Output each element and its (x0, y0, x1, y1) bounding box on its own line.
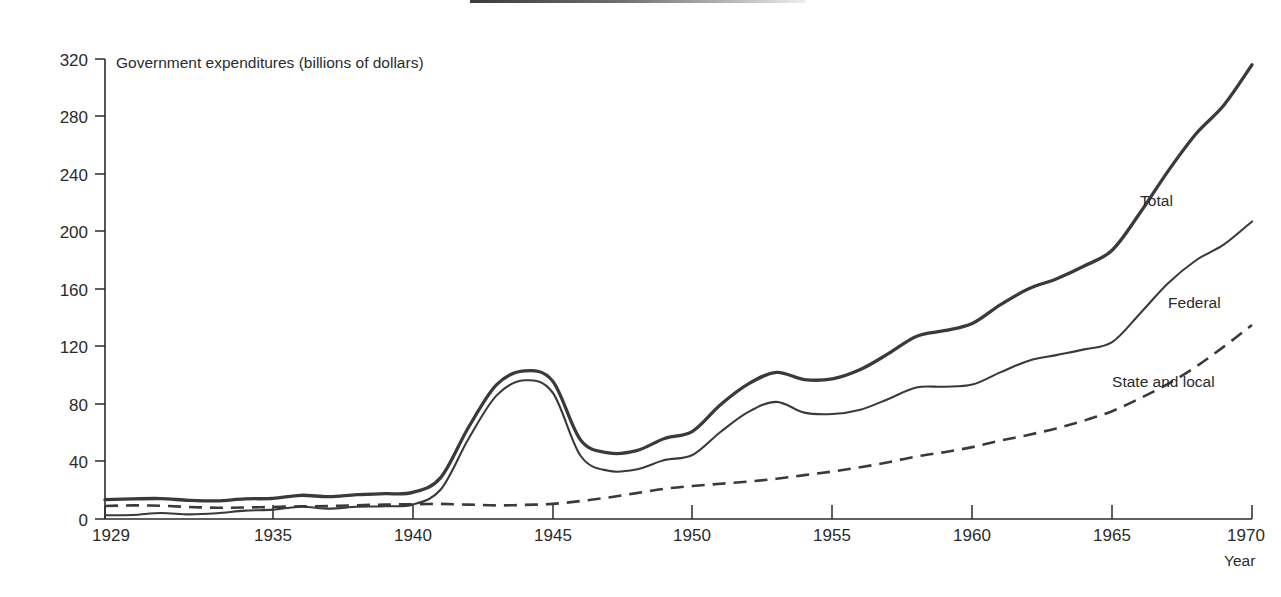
series-label-total: Total (1140, 192, 1173, 209)
x-tick-label: 1960 (953, 526, 991, 545)
x-tick-label: 1929 (92, 526, 130, 545)
y-tick-label: 120 (60, 338, 88, 357)
y-tick-label: 0 (79, 511, 88, 530)
series-label-federal: Federal (1168, 294, 1221, 311)
y-tick-label: 280 (60, 108, 88, 127)
series-line-federal (105, 221, 1252, 515)
x-tick-label: 1935 (254, 526, 292, 545)
y-axis-caption: Government expenditures (billions of dol… (116, 54, 424, 71)
line-chart-canvas: 320 280 240 200 160 120 80 40 0 1929 193… (0, 0, 1281, 597)
x-tick-label: 1965 (1093, 526, 1131, 545)
x-tick-label: 1955 (813, 526, 851, 545)
y-tick-label: 320 (60, 51, 88, 70)
y-tick-label: 80 (69, 396, 88, 415)
x-tick-label: 1970 (1227, 526, 1265, 545)
y-tick-label: 240 (60, 166, 88, 185)
y-tick-label: 40 (69, 453, 88, 472)
x-tick-label: 1945 (534, 526, 572, 545)
x-tick-label: 1940 (394, 526, 432, 545)
x-tick-label: 1950 (673, 526, 711, 545)
y-tick-labels: 320 280 240 200 160 120 80 40 0 (60, 51, 88, 530)
chart-figure: 320 280 240 200 160 120 80 40 0 1929 193… (0, 0, 1281, 597)
x-axis-caption: Year (1224, 552, 1255, 569)
x-tick-labels: 1929 1935 1940 1945 1950 1955 1960 1965 … (92, 526, 1265, 545)
series-line-state-and-local (105, 325, 1252, 508)
series-line-total (105, 65, 1252, 501)
y-tick-label: 200 (60, 223, 88, 242)
y-tick-marks (95, 59, 105, 519)
y-tick-label: 160 (60, 281, 88, 300)
series-label-state-and-local: State and local (1112, 373, 1215, 390)
